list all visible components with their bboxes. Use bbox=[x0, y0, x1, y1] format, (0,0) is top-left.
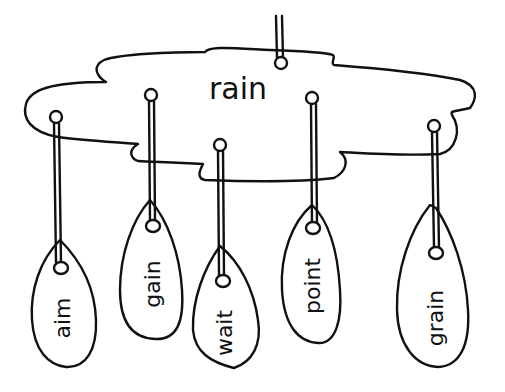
hanger-string-right bbox=[282, 16, 283, 58]
string-grain-left bbox=[432, 132, 434, 248]
pin-gain-icon bbox=[145, 89, 157, 101]
tag-label-gain: gain bbox=[140, 260, 165, 308]
tag-grain: grain bbox=[397, 120, 468, 367]
pin-wait-icon bbox=[214, 139, 226, 151]
hanger-string-left bbox=[276, 16, 277, 58]
tag-gain: gain bbox=[120, 89, 182, 339]
string-wait-right bbox=[223, 150, 224, 276]
string-aim-left bbox=[54, 124, 56, 262]
string-grain-right bbox=[437, 132, 439, 248]
tag-hole-wait-icon bbox=[216, 275, 230, 287]
tag-label-aim: aim bbox=[50, 297, 75, 338]
pin-aim-icon bbox=[50, 111, 62, 123]
tag-wait: wait bbox=[193, 139, 259, 368]
string-point-left bbox=[311, 104, 312, 226]
tag-hole-grain-icon bbox=[429, 247, 443, 259]
tag-label-wait: wait bbox=[212, 310, 237, 357]
tag-hole-aim-icon bbox=[54, 262, 68, 274]
tag-aim: aim bbox=[32, 111, 96, 367]
pin-point-icon bbox=[306, 92, 318, 104]
tag-point: point bbox=[282, 92, 341, 343]
tag-label-grain: grain bbox=[423, 290, 448, 347]
cloud-label: rain bbox=[209, 71, 267, 106]
tag-hole-point-icon bbox=[306, 222, 320, 234]
string-gain-left bbox=[149, 100, 150, 222]
hanger bbox=[275, 16, 287, 69]
mobile-diagram: rain aim gain wait point bbox=[0, 0, 505, 392]
cloud-shape bbox=[25, 48, 475, 181]
tag-hole-gain-icon bbox=[146, 220, 160, 232]
pin-grain-icon bbox=[428, 120, 440, 132]
string-wait-left bbox=[218, 150, 219, 276]
hanger-ring-icon bbox=[275, 57, 287, 69]
tag-label-point: point bbox=[300, 258, 325, 314]
